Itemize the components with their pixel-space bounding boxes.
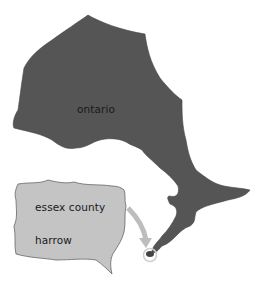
province-label: ontario	[77, 103, 115, 115]
pointer-arrow	[128, 208, 146, 240]
essex-county-shape	[14, 180, 126, 274]
county-label: essex county	[35, 201, 105, 213]
town-label: harrow	[35, 234, 72, 246]
arrow-head-icon	[139, 238, 152, 248]
harrow-location-marker	[146, 251, 154, 257]
